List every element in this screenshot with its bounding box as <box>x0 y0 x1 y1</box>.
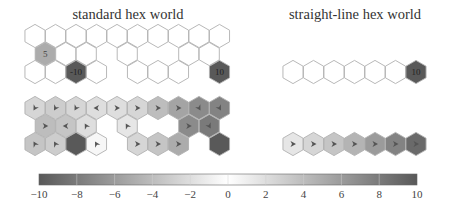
hex-cell <box>344 60 364 83</box>
hex-value-label: 10 <box>215 67 225 77</box>
hex-value-label: -10 <box>70 67 82 77</box>
colorbar-tick-label: 8 <box>376 188 382 200</box>
hex-world-figure: standard hex world straight-line hex wor… <box>0 0 452 208</box>
colorbar-tick-label: 2 <box>263 188 269 200</box>
title-standard-hex-world: standard hex world <box>72 6 184 22</box>
standard-reward-grid: 5-1010 <box>25 24 230 83</box>
straight-reward-grid: 10 <box>283 60 426 83</box>
colorbar-tick-label: 10 <box>412 188 424 200</box>
colorbar: −10−8−6−4−20246810 <box>30 174 423 200</box>
hex-cell <box>148 24 168 47</box>
colorbar-tick-label: −8 <box>71 188 83 200</box>
hex-cell <box>324 60 344 83</box>
hex-cell <box>303 60 323 83</box>
colorbar-tick-label: 4 <box>301 188 307 200</box>
colorbar-tick-label: −6 <box>109 188 121 200</box>
colorbar-tick-label: −4 <box>147 188 159 200</box>
colorbar-tick-label: 6 <box>339 188 345 200</box>
colorbar-tick-label: 0 <box>225 188 231 200</box>
colorbar-tick-label: −10 <box>30 188 48 200</box>
hex-cell <box>385 60 405 83</box>
hex-cell <box>148 60 168 83</box>
title-straight-line-hex-world: straight-line hex world <box>289 6 422 22</box>
hex-cell <box>283 60 303 83</box>
colorbar-tick-label: −2 <box>184 188 196 200</box>
standard-policy-grid <box>25 96 230 155</box>
hex-value-label: 5 <box>43 49 48 59</box>
hex-cell <box>365 60 385 83</box>
straight-policy-grid <box>283 132 426 155</box>
hex-value-label: 10 <box>412 67 422 77</box>
